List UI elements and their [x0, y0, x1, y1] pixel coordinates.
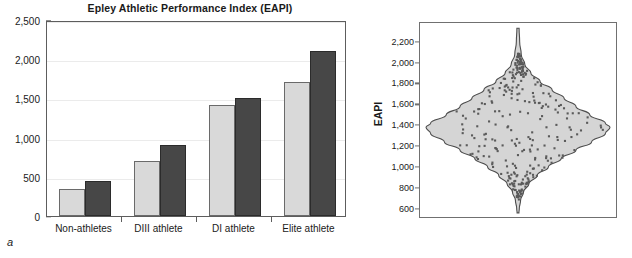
violin-data-point [531, 131, 533, 133]
violin-data-point [529, 138, 531, 140]
violin-data-point [548, 135, 550, 137]
violin-data-point [533, 167, 535, 169]
panel-b-violin-plot: EAPI 6008001,0001,2001,4001,6001,8002,00… [372, 0, 632, 258]
bar [310, 51, 336, 216]
violin-data-point [477, 150, 479, 152]
violin-data-point [547, 160, 549, 162]
violin-data-point [500, 82, 502, 84]
violin-data-point [600, 125, 602, 127]
bar [134, 161, 160, 216]
violin-plot-area [419, 22, 617, 218]
violin-data-point [491, 102, 493, 104]
y-tick-label: 500 [23, 172, 40, 183]
violin-data-point [520, 58, 522, 60]
violin-y-tick-label: 1,400 [391, 120, 414, 130]
violin-data-point [505, 159, 507, 161]
violin-data-point [498, 110, 500, 112]
bar [235, 98, 261, 216]
violin-data-point [540, 84, 542, 86]
violin-data-point [523, 76, 525, 78]
bar-chart-y-axis-labels: 05001,0001,5002,0002,500 [0, 21, 40, 217]
violin-data-point [520, 193, 522, 195]
violin-data-point [533, 77, 535, 79]
violin-y-tick-label: 1,800 [391, 78, 414, 88]
violin-data-point [513, 185, 515, 187]
violin-data-point [526, 171, 528, 173]
violin-data-point [484, 103, 486, 105]
violin-data-point [586, 122, 588, 124]
violin-data-point [578, 112, 580, 114]
y-tick-label: 1,500 [15, 94, 40, 105]
violin-data-point [510, 129, 512, 131]
violin-data-point [567, 112, 569, 114]
violin-data-point [518, 71, 520, 73]
violin-data-point [516, 93, 518, 95]
violin-data-point [497, 150, 499, 152]
violin-data-point [517, 56, 519, 58]
violin-data-point [529, 165, 531, 167]
violin-data-point [525, 73, 527, 75]
violin-data-point [600, 126, 602, 128]
violin-data-point [515, 189, 517, 191]
violin-data-point [504, 89, 506, 91]
violin-data-point [516, 67, 518, 69]
figure-container: Epley Athletic Performance Index (EAPI) … [0, 0, 632, 258]
gridline [47, 61, 345, 62]
violin-data-point [519, 191, 521, 193]
violin-data-point [545, 155, 547, 157]
violin-data-point [495, 123, 497, 125]
violin-y-tick-label: 1,200 [391, 141, 414, 151]
x-tick-mark [121, 217, 122, 222]
violin-data-point [506, 84, 508, 86]
violin-data-point [520, 74, 522, 76]
violin-data-point [523, 149, 525, 151]
violin-data-point [570, 136, 572, 138]
violin-data-point [528, 101, 530, 103]
violin-data-point [510, 174, 512, 176]
violin-data-point [507, 180, 509, 182]
violin-data-point [541, 115, 543, 117]
violin-data-point [516, 196, 518, 198]
panel-a-letter: a [7, 236, 13, 248]
violin-data-point [521, 183, 523, 185]
violin-data-point [504, 86, 506, 88]
violin-data-point [516, 193, 518, 195]
violin-data-point [519, 68, 521, 70]
violin-data-point [520, 80, 522, 82]
violin-data-point [534, 158, 536, 160]
violin-data-point [518, 198, 520, 200]
violin-data-point [518, 142, 520, 144]
bar [284, 82, 310, 216]
violin-data-point [478, 145, 480, 147]
violin-y-tick-label: 2,000 [391, 58, 414, 68]
violin-data-point [516, 174, 518, 176]
violin-y-tick-label: 1,000 [391, 162, 414, 172]
violin-data-point [558, 105, 560, 107]
violin-data-point [511, 71, 513, 73]
violin-data-point [491, 162, 493, 164]
violin-data-point [576, 133, 578, 135]
violin-data-point [529, 172, 531, 174]
violin-data-point [547, 106, 549, 108]
violin-data-point [506, 165, 508, 167]
gridline [47, 22, 345, 23]
violin-data-point [509, 71, 511, 73]
violin-data-point [488, 95, 490, 97]
violin-data-point [538, 164, 540, 166]
violin-data-point [513, 171, 515, 173]
violin-data-point [514, 143, 516, 145]
violin-data-point [527, 136, 529, 138]
violin-data-point [527, 183, 529, 185]
violin-data-point [517, 84, 519, 86]
violin-data-point [539, 102, 541, 104]
x-category-label: DIII athlete [134, 223, 182, 234]
violin-data-point [518, 93, 520, 95]
violin-data-point [557, 139, 559, 141]
violin-data-point [462, 115, 464, 117]
violin-data-point [516, 86, 518, 88]
violin-data-point [551, 162, 553, 164]
violin-data-point [471, 153, 473, 155]
violin-data-point [500, 173, 502, 175]
violin-data-point [473, 110, 475, 112]
violin-data-point [514, 165, 516, 167]
